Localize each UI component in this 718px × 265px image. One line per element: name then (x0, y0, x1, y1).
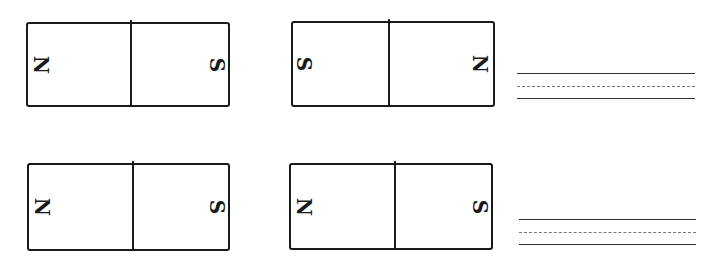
pole-label-left: S (294, 57, 314, 71)
top-line (519, 219, 696, 220)
base-line (519, 244, 696, 245)
magnet-divider (130, 20, 132, 107)
pole-label-right: S (470, 199, 490, 213)
magnet-divider (388, 19, 390, 107)
pole-label-right: S (207, 57, 227, 71)
magnet-1: N S (26, 22, 230, 107)
pole-label-left: N (31, 55, 51, 73)
magnet-4: N S (289, 163, 493, 250)
pole-label-left: N (294, 197, 314, 215)
magnet-3: N S (27, 163, 230, 251)
midline (519, 232, 696, 233)
midline (517, 86, 695, 87)
pole-label-left: N (32, 198, 52, 216)
top-line (517, 73, 695, 74)
magnet-divider (132, 161, 134, 251)
magnet-divider (394, 161, 396, 250)
pole-label-right: S (207, 200, 227, 214)
magnet-2: S N (291, 21, 495, 107)
answer-lines-2[interactable] (519, 219, 696, 247)
pole-label-right: N (470, 55, 490, 73)
answer-lines-1[interactable] (517, 73, 695, 101)
base-line (517, 98, 695, 99)
